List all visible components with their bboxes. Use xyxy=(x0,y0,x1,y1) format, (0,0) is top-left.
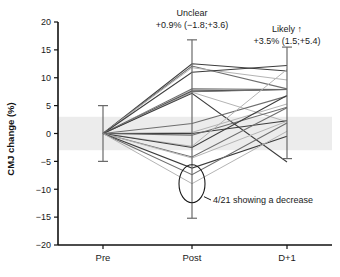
y-axis-title: CMJ change (%) xyxy=(5,102,16,175)
cmj-change-spaghetti-plot: 20151050−5−10−15−20 PrePostD+1 CMJ chang… xyxy=(0,0,340,277)
decrease-callout-text: 4/21 showing a decrease xyxy=(213,195,313,205)
y-tick-label: 20 xyxy=(41,17,51,27)
y-tick-label: 10 xyxy=(41,73,51,83)
y-tick-label: −5 xyxy=(41,157,51,167)
d1-effect-label-line1: Likely ↑ xyxy=(272,24,302,34)
post-effect-label-line2: +0.9% (−1.8;+3.6) xyxy=(156,20,228,30)
x-tick-label-dplus1: D+1 xyxy=(278,252,296,263)
y-tick-label: 5 xyxy=(46,101,51,111)
y-tick-label: 15 xyxy=(41,45,51,55)
x-tick-label-pre: Pre xyxy=(96,252,111,263)
y-tick-label: −15 xyxy=(36,212,51,222)
d1-effect-label-line2: +3.5% (1.5;+5.4) xyxy=(253,36,320,46)
y-tick-label: −10 xyxy=(36,185,51,195)
chart-figure: 20151050−5−10−15−20 PrePostD+1 CMJ chang… xyxy=(0,0,340,277)
post-effect-label-line1: Unclear xyxy=(176,8,207,18)
x-tick-label-post: Post xyxy=(182,252,201,263)
y-tick-label: −20 xyxy=(36,240,51,250)
y-tick-label: 0 xyxy=(46,129,51,139)
